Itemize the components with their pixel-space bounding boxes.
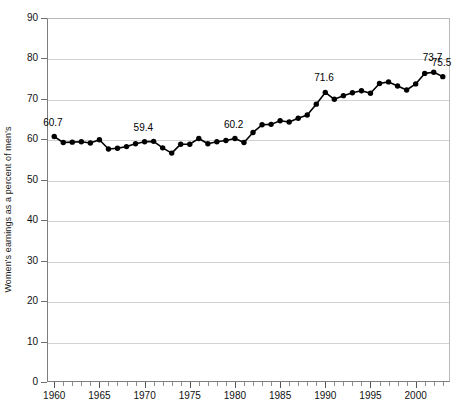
data-point [277, 118, 282, 123]
data-point [431, 70, 436, 75]
line-chart: Women's earnings as a percent of men's 0… [0, 0, 469, 419]
data-point [386, 79, 391, 84]
data-point [115, 146, 120, 151]
point-value-label: 71.6 [314, 72, 333, 83]
data-point [413, 81, 418, 86]
data-point [52, 134, 57, 139]
data-point [305, 112, 310, 117]
data-point [214, 139, 219, 144]
data-point [422, 71, 427, 76]
data-point [151, 139, 156, 144]
data-point [142, 139, 147, 144]
data-point [196, 136, 201, 141]
data-point [70, 139, 75, 144]
data-point [395, 83, 400, 88]
data-point [124, 144, 129, 149]
point-value-label: 60.7 [43, 117, 62, 128]
data-point [79, 139, 84, 144]
data-point [232, 136, 237, 141]
point-value-label: 60.2 [224, 119, 243, 130]
data-point [178, 141, 183, 146]
data-point [205, 141, 210, 146]
data-point [359, 88, 364, 93]
data-point [97, 137, 102, 142]
data-point [250, 130, 255, 135]
data-point [169, 150, 174, 155]
data-point [440, 74, 445, 79]
data-series-layer [0, 0, 469, 419]
data-point [323, 90, 328, 95]
data-point [314, 101, 319, 106]
series-line-0 [54, 72, 443, 153]
data-point [377, 81, 382, 86]
point-value-label: 59.4 [134, 122, 153, 133]
data-point [368, 91, 373, 96]
data-point [241, 140, 246, 145]
data-point [187, 141, 192, 146]
data-point [223, 138, 228, 143]
data-point [332, 97, 337, 102]
data-point [259, 122, 264, 127]
data-point [350, 90, 355, 95]
data-point [106, 146, 111, 151]
data-point [133, 141, 138, 146]
data-point [296, 116, 301, 121]
data-point [268, 122, 273, 127]
data-point [61, 140, 66, 145]
data-point [286, 119, 291, 124]
data-point [88, 140, 93, 145]
data-point [160, 145, 165, 150]
data-point [404, 87, 409, 92]
data-point [341, 93, 346, 98]
point-value-label: 75.5 [432, 57, 451, 68]
